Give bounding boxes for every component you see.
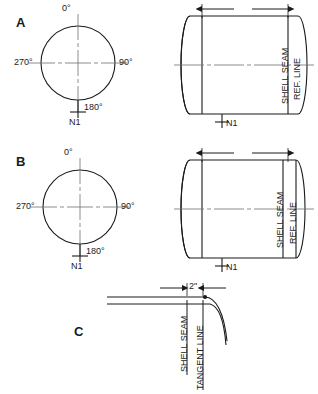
panel-a-end-view [29,14,127,118]
angle-label-b-180: 180° [86,247,105,256]
angle-label-a-0: 0° [62,4,71,13]
angle-label-b-270: 270° [16,202,35,211]
vertical-label-b-shell-seam: SHELL SEAM [276,192,285,248]
panel-c-detail-view [107,283,227,390]
panel-b-end-view [31,158,129,262]
angle-label-b-90: 90° [121,202,135,211]
vertical-label-c-tangent-line: TANGENT LINE [196,325,205,390]
panel-letter-c: C [74,325,83,338]
technical-drawing-canvas [0,0,318,394]
angle-label-b-0: 0° [64,148,73,157]
panel-letter-a: A [16,16,25,29]
nozzle-label-a-side: N1 [226,119,238,128]
angle-label-a-90: 90° [119,58,133,67]
dimension-label-c: 2" [189,282,197,291]
angle-label-a-180: 180° [84,103,103,112]
vertical-label-a-shell-seam: SHELL SEAM [281,48,290,104]
nozzle-label-b-side: N1 [226,263,238,272]
nozzle-label-b-end: N1 [71,262,83,271]
vertical-label-b-ref-line: REF. LINE [289,202,298,244]
drawing-sheet: A 0° 90° 180° 270° N1 SHELL SEAM REF. LI… [0,0,318,394]
vertical-label-a-ref-line: REF. LINE [293,58,302,100]
head-inner-curve-c [210,304,226,345]
nozzle-label-a-end: N1 [69,118,81,127]
angle-label-a-270: 270° [14,58,33,67]
panel-letter-b: B [16,155,25,168]
vertical-label-c-shell-seam: SHELL SEAM [180,316,189,372]
